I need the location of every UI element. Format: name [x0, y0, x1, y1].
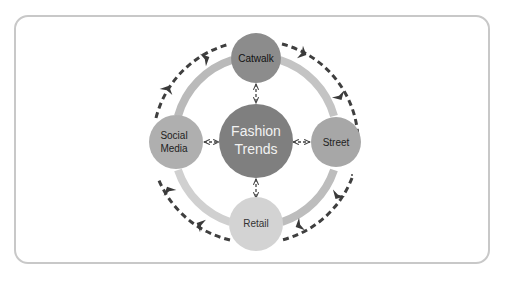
stray-dot [351, 174, 353, 176]
node-label: Street [323, 137, 350, 148]
chevron-arrow-icon [297, 46, 309, 62]
node-catwalk: Catwalk [231, 33, 281, 83]
center-label-line2: Trends [234, 141, 277, 157]
node-label: Catwalk [238, 53, 275, 64]
node-street: Street [311, 117, 361, 167]
node-label-line1: Social [160, 130, 187, 141]
center-node-fashion-trends: Fashion Trends [219, 104, 293, 178]
node-label-line2: Media [160, 143, 188, 154]
outer-ring-segment-se [282, 178, 352, 240]
node-circle [149, 115, 203, 169]
chevron-arrow-icon [329, 190, 345, 203]
node-retail: Retail [229, 197, 283, 251]
node-social-media: Social Media [149, 115, 203, 169]
center-label-line1: Fashion [231, 123, 281, 139]
chevron-arrow-icon [160, 83, 176, 95]
inner-ring-segment-nw [178, 60, 232, 116]
node-label: Retail [243, 218, 269, 229]
chevron-arrow-icon [194, 217, 206, 233]
fashion-trends-diagram: Fashion Trends Catwalk Social Media Stre… [0, 0, 507, 281]
inner-ring-segment-sw [178, 170, 230, 222]
